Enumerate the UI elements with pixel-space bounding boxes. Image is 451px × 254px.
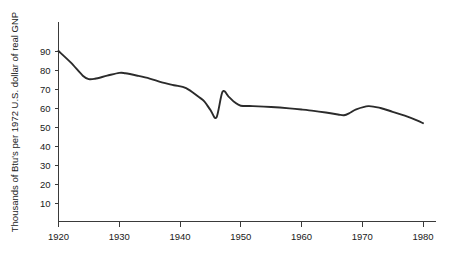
y-tick-label-90: 90 (40, 46, 51, 57)
y-axis-tick-labels: 102030405060708090 (40, 46, 51, 209)
y-tick-label-10: 10 (40, 198, 51, 209)
y-tick-label-50: 50 (40, 122, 51, 133)
line-chart: 102030405060708090 192019301940195019601… (0, 0, 451, 254)
y-axis-ticks (55, 51, 59, 203)
y-tick-label-30: 30 (40, 160, 51, 171)
y-tick-label-20: 20 (40, 179, 51, 190)
data-series-line (59, 51, 424, 123)
y-tick-label-70: 70 (40, 84, 51, 95)
y-axis: 102030405060708090 (40, 22, 59, 222)
x-tick-label-1920: 1920 (48, 231, 69, 242)
y-tick-label-80: 80 (40, 65, 51, 76)
x-axis: 1920193019401950196019701980 (48, 222, 436, 243)
x-tick-label-1940: 1940 (169, 231, 190, 242)
x-tick-label-1960: 1960 (291, 231, 312, 242)
chart-container: 102030405060708090 192019301940195019601… (0, 0, 451, 254)
x-axis-ticks (59, 222, 424, 227)
y-tick-label-60: 60 (40, 103, 51, 114)
y-tick-label-40: 40 (40, 141, 51, 152)
x-tick-label-1930: 1930 (109, 231, 130, 242)
y-axis-title: Thousands of Btu's per 1972 U.S. dollar … (9, 12, 20, 232)
x-tick-label-1950: 1950 (230, 231, 251, 242)
x-tick-label-1980: 1980 (412, 231, 433, 242)
x-tick-label-1970: 1970 (352, 231, 373, 242)
x-axis-tick-labels: 1920193019401950196019701980 (48, 231, 434, 242)
